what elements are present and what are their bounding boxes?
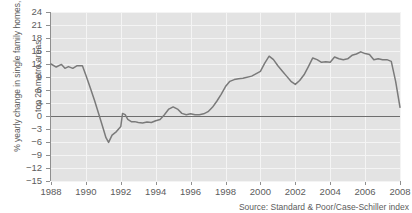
y-tick-label: −15 xyxy=(2,175,42,186)
y-tick-label: 18 xyxy=(2,32,42,43)
chart-figure: % yearly change in single family homes, … xyxy=(0,0,412,213)
y-tick-label: 9 xyxy=(2,71,42,82)
y-tick-label: −3 xyxy=(2,123,42,134)
y-tick-label: 3 xyxy=(2,97,42,108)
y-tick-mark xyxy=(46,155,50,156)
gridline-horizontal xyxy=(51,181,400,182)
y-tick-mark xyxy=(46,103,50,104)
y-tick-label: 21 xyxy=(2,19,42,30)
y-tick-label: −6 xyxy=(2,136,42,147)
y-tick-label: 6 xyxy=(2,84,42,95)
y-tick-mark xyxy=(46,129,50,130)
x-tick-label: 2008 xyxy=(380,186,412,197)
y-tick-label: −12 xyxy=(2,162,42,173)
y-tick-mark xyxy=(46,12,50,13)
source-caption: Source: Standard & Poor/Case-Schiller in… xyxy=(239,202,409,212)
y-tick-mark xyxy=(46,181,50,182)
y-tick-mark xyxy=(46,38,50,39)
y-tick-mark xyxy=(46,142,50,143)
gridline-vertical xyxy=(400,12,401,181)
y-tick-mark xyxy=(46,25,50,26)
plot-area xyxy=(51,12,400,181)
series-line xyxy=(51,52,400,143)
y-tick-mark xyxy=(46,168,50,169)
y-tick-mark xyxy=(46,64,50,65)
y-tick-mark xyxy=(46,51,50,52)
y-tick-label: 12 xyxy=(2,58,42,69)
y-tick-label: 0 xyxy=(2,110,42,121)
y-tick-mark xyxy=(46,116,50,117)
data-line-series xyxy=(51,12,400,181)
y-tick-mark xyxy=(46,90,50,91)
y-tick-label: −9 xyxy=(2,149,42,160)
y-tick-mark xyxy=(46,77,50,78)
x-tick-mark xyxy=(400,181,401,185)
y-tick-label: 24 xyxy=(2,6,42,17)
y-tick-label: 15 xyxy=(2,45,42,56)
